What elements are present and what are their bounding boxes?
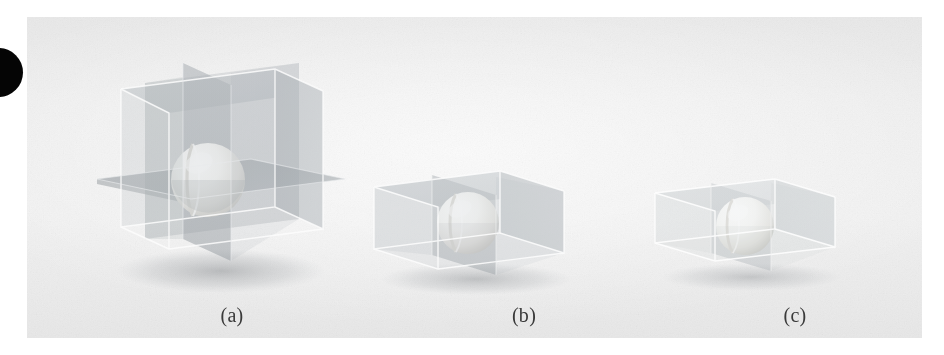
caption-a: (a) — [197, 304, 267, 327]
panel-c-ground-shadow — [661, 263, 841, 291]
page-edge-dot — [0, 48, 23, 97]
panel-a-scene — [83, 47, 343, 292]
caption-b: (b) — [489, 304, 559, 327]
panel-b-scene — [352, 157, 602, 292]
panel-b-box-front — [374, 171, 564, 275]
caption-c: (c) — [760, 304, 830, 327]
panel-c-scene — [635, 165, 870, 290]
figure-plate: (a) (b) (c) — [27, 17, 922, 338]
